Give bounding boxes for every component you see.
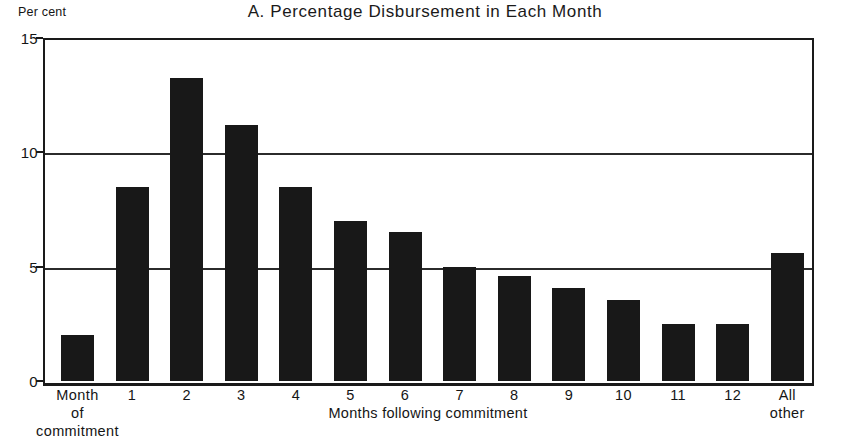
y-tick-label-5: 5 [4,259,38,274]
bar [607,300,640,381]
bar [716,324,749,381]
x-tick-label-line: All [732,386,842,404]
y-axis-unit-label: Per cent [18,5,66,19]
y-tick-mark-15 [36,37,43,39]
bar [225,125,258,381]
y-tick-label-15: 15 [4,31,38,46]
y-tick-mark-5 [36,266,43,268]
bar [334,221,367,381]
bar [61,335,94,381]
x-tick-label-line: other [732,404,842,422]
chart-figure: A. Percentage Disbursement in Each Month… [0,0,844,447]
x-axis-title: Months following commitment [218,405,638,421]
bar [389,232,422,381]
x-tick-label: Allother [732,386,842,422]
x-tick-label-line: of [23,404,133,422]
x-tick-label-line: commitment [23,422,133,440]
bar [662,324,695,381]
y-tick-label-10: 10 [4,145,38,160]
y-tick-mark-0 [36,380,43,382]
chart-title: A. Percentage Disbursement in Each Month [200,2,650,22]
bar [170,78,203,381]
bar [498,276,531,381]
bar [771,253,804,381]
y-tick-mark-10 [36,151,43,153]
bar [116,187,149,381]
bar [279,187,312,381]
bar-series [45,38,810,381]
y-axis-ticks: 051015 [0,38,38,381]
bar [552,288,585,381]
bar [443,267,476,381]
